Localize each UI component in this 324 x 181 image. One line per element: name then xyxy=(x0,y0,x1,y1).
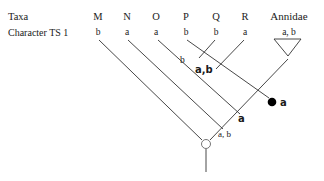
branch-o xyxy=(158,40,240,114)
filled-node xyxy=(268,98,277,107)
below-filled-node-state: a xyxy=(238,113,245,124)
annidae-triangle xyxy=(274,39,301,56)
root-branch-state: a, b xyxy=(218,129,231,140)
branch-r xyxy=(216,40,244,69)
branch-m xyxy=(99,40,202,140)
spine-to-annidae xyxy=(210,59,288,140)
filled-node-state: a xyxy=(280,97,287,108)
pqr-branch-state: a,b xyxy=(195,64,213,75)
branch-n xyxy=(128,40,223,129)
root-open-node xyxy=(202,140,211,149)
branch-q xyxy=(199,40,215,58)
cladogram-tree xyxy=(0,0,324,181)
pq-branch-state: b xyxy=(180,55,185,66)
